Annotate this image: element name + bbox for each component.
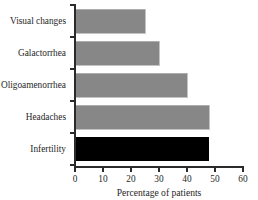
x-tick-label-30: 30 (154, 174, 164, 184)
bar-infertility (75, 137, 209, 161)
bar-visual-changes (75, 9, 145, 33)
x-tick-label-10: 10 (98, 174, 108, 184)
chart-canvas: Visual changes Galactorrhea Oligoamenorr… (0, 0, 258, 200)
x-tick-label-40: 40 (182, 174, 192, 184)
bar-galactorrhea (75, 41, 159, 65)
y-label-galactorrhea: Galactorrhea (18, 48, 66, 58)
y-label-oligoamenorrhea: Oligoamenorrhea (1, 80, 66, 90)
bar-oligoamenorrhea (75, 73, 187, 97)
x-tick-label-20: 20 (126, 174, 136, 184)
y-label-visual-changes: Visual changes (10, 16, 66, 26)
y-label-infertility: Infertility (30, 144, 66, 154)
bar-chart-figure: Visual changes Galactorrhea Oligoamenorr… (0, 0, 258, 200)
y-label-headaches: Headaches (26, 112, 67, 122)
x-axis-title: Percentage of patients (117, 187, 202, 198)
x-tick-label-50: 50 (210, 174, 220, 184)
x-tick-label-0: 0 (73, 174, 78, 184)
bar-headaches (75, 105, 209, 129)
x-tick-label-60: 60 (238, 174, 248, 184)
